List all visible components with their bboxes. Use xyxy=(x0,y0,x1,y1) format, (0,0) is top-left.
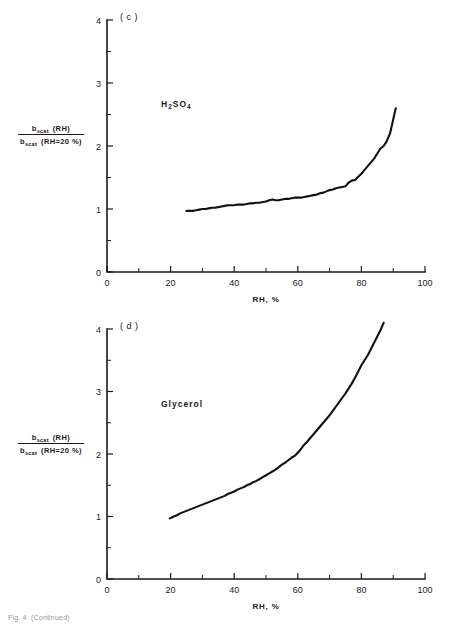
chart-axes xyxy=(107,329,425,579)
y-tick-label: 3 xyxy=(96,79,101,89)
panel-label-c: ( c ) xyxy=(120,12,138,22)
chart-plot-area-d: 02040608010001234RH, % xyxy=(0,311,452,621)
x-axis-title: RH, % xyxy=(252,295,279,304)
chart-panel-c: 02040608010001234RH, % ( c ) H2SO4 bscat… xyxy=(0,0,452,310)
y-axis-denominator: bscat(RH=20 %) xyxy=(18,134,84,146)
x-tick-label: 100 xyxy=(417,585,432,595)
y-tick-label: 0 xyxy=(96,268,101,278)
x-tick-label: 80 xyxy=(356,278,366,288)
x-axis-title: RH, % xyxy=(252,602,279,611)
y-axis-denominator: bscat(RH=20 %) xyxy=(18,443,84,455)
panel-label-d: ( d ) xyxy=(120,321,139,331)
y-tick-label: 2 xyxy=(96,450,101,460)
y-axis-numerator: bscat(RH) xyxy=(30,433,72,443)
x-tick-label: 100 xyxy=(417,278,432,288)
x-tick-label: 0 xyxy=(104,585,109,595)
y-tick-label: 1 xyxy=(96,205,101,215)
y-tick-label: 4 xyxy=(96,16,101,26)
y-tick-label: 2 xyxy=(96,142,101,152)
y-axis-title-d: bscat(RH) bscat(RH=20 %) xyxy=(18,433,84,456)
x-tick-label: 0 xyxy=(104,278,109,288)
x-tick-label: 20 xyxy=(166,585,176,595)
x-tick-label: 20 xyxy=(166,278,176,288)
series-label-h2so4: H2SO4 xyxy=(161,99,192,109)
y-tick-label: 0 xyxy=(96,575,101,585)
data-curve xyxy=(187,108,396,211)
y-axis-title-c: bscat(RH) bscat(RH=20 %) xyxy=(18,124,84,147)
y-tick-label: 3 xyxy=(96,387,101,397)
x-tick-label: 40 xyxy=(229,585,239,595)
y-tick-label: 1 xyxy=(96,512,101,522)
x-tick-label: 80 xyxy=(356,585,366,595)
chart-axes xyxy=(107,20,425,272)
y-tick-label: 4 xyxy=(96,325,101,335)
x-tick-label: 60 xyxy=(293,585,303,595)
y-axis-numerator: bscat(RH) xyxy=(30,124,72,134)
series-label-glycerol: Glycerol xyxy=(161,399,203,409)
x-tick-label: 40 xyxy=(229,278,239,288)
chart-plot-area-c: 02040608010001234RH, % xyxy=(0,0,452,310)
figure-caption: Fig. 4. (Continued) xyxy=(8,614,308,624)
chart-panel-d: 02040608010001234RH, % ( d ) Glycerol bs… xyxy=(0,311,452,621)
data-curve xyxy=(170,323,384,519)
x-tick-label: 60 xyxy=(293,278,303,288)
